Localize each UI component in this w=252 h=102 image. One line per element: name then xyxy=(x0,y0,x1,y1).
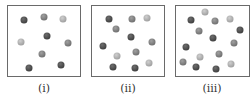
particle-mid xyxy=(133,49,140,56)
particle-dark xyxy=(210,35,217,42)
particle-dark xyxy=(100,43,107,50)
particle-light xyxy=(144,15,151,22)
particle-dark xyxy=(21,17,28,24)
particle-dark xyxy=(58,62,65,69)
particle-dark xyxy=(237,27,244,34)
particle-light xyxy=(202,9,209,16)
particle-light xyxy=(227,16,234,23)
particle-dark xyxy=(213,66,220,73)
particle-mid xyxy=(39,51,46,58)
particle-dark xyxy=(193,64,200,71)
particle-light xyxy=(146,60,153,67)
particle-mid xyxy=(216,51,223,58)
panel-label-ii: (ii) xyxy=(91,82,165,95)
particle-mid xyxy=(65,40,72,47)
particle-mid xyxy=(41,14,48,21)
particle-dark xyxy=(132,65,139,72)
particle-light xyxy=(114,53,121,60)
particle-mid xyxy=(196,28,203,35)
particle-light xyxy=(60,16,67,23)
particle-mid xyxy=(180,59,187,66)
panel-label-iii: (iii) xyxy=(175,82,249,95)
particle-light xyxy=(228,61,235,68)
particle-light xyxy=(18,39,25,46)
particle-dark xyxy=(44,33,51,40)
particle-light xyxy=(197,54,204,61)
particle-mid xyxy=(212,18,219,25)
particle-dark xyxy=(183,44,190,51)
particle-mid xyxy=(149,39,156,46)
panel-label-i: (i) xyxy=(7,82,81,95)
particle-mid xyxy=(129,16,136,23)
particle-dark xyxy=(110,64,117,71)
particle-mid xyxy=(113,26,120,33)
particle-dark xyxy=(26,65,33,72)
particle-dark xyxy=(106,16,113,23)
particle-mid xyxy=(231,40,238,47)
particle-dark xyxy=(188,17,195,24)
particle-dark xyxy=(128,34,135,41)
